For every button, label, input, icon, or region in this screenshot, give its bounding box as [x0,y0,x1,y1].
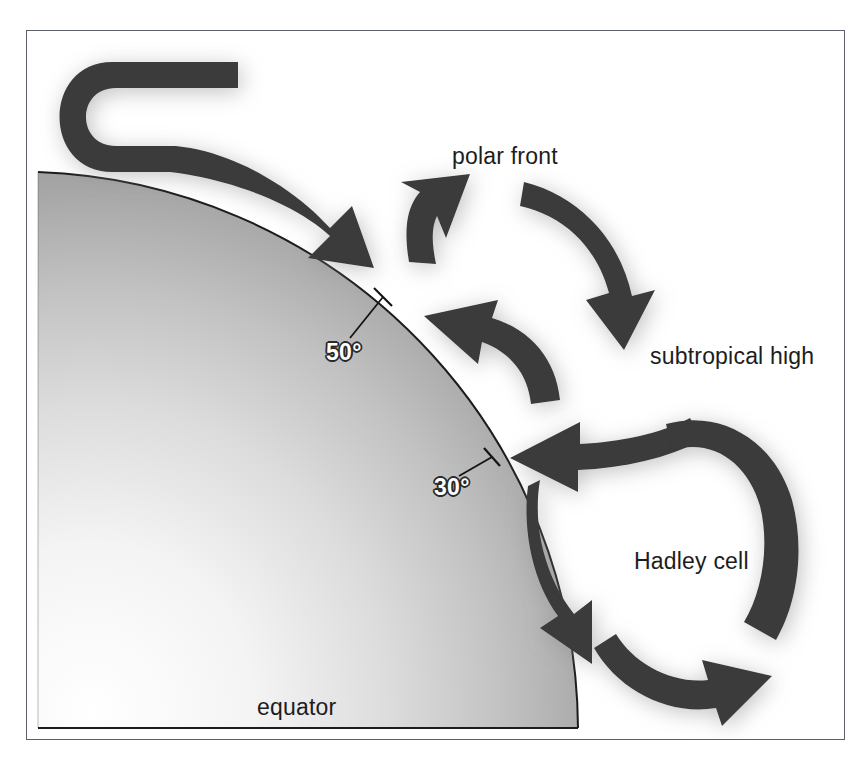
globe-body [38,172,578,728]
circulation-diagram [0,0,859,764]
hadley-right-ascending-limb [666,420,799,640]
hadley-bottom-arrow [594,634,772,726]
ferrel-right-descending-arrow [520,182,655,350]
ferrel-left-ascending-arrow [401,174,470,264]
earth-quadrant [38,172,578,728]
figure-root: polar front subtropical high Hadley cell… [0,0,859,764]
